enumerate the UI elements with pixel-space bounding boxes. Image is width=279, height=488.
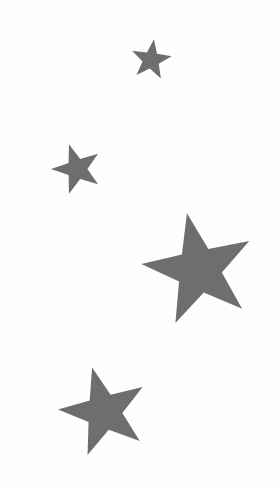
stars-illustration xyxy=(0,0,279,488)
image-canvas xyxy=(0,0,279,488)
